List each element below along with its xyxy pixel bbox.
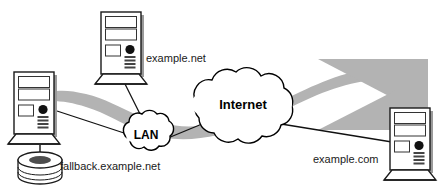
cloud-lan: LAN <box>123 110 173 150</box>
node-label-fallback: fallback.example.net <box>60 160 160 172</box>
cloud-lan-label: LAN <box>134 128 159 142</box>
tower-icon-fallback <box>8 72 60 144</box>
node-label-example-com: example.com <box>313 153 378 165</box>
network-diagram-canvas: LAN Internet fallback.exa <box>0 0 444 188</box>
cloud-internet: Internet <box>192 68 293 143</box>
node-example-net: example.net <box>95 12 206 84</box>
tower-icon-example-com <box>384 108 436 180</box>
network-diagram: LAN Internet fallback.exa <box>0 0 444 188</box>
cloud-internet-label: Internet <box>219 97 267 112</box>
database-cylinder-icon <box>18 152 62 184</box>
node-label-example-net: example.net <box>146 52 206 64</box>
tower-icon-example-net <box>95 12 147 84</box>
